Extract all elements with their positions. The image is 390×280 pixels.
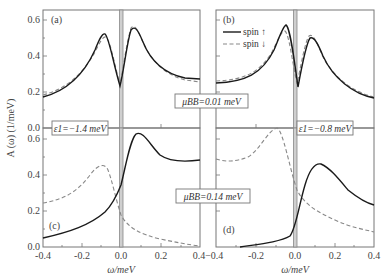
annotation-field-top: μBB=0.01 meV [175,94,248,108]
spectral-function-figure: 0.6 0.4 0.2 0.0 0.6 0.4 0.2 0.0 -0.4 -0.… [0,0,390,280]
x-tick-right-0.0: 0.0 [289,250,302,261]
y-tick-a-0.0: 0.0 [28,122,41,133]
y-tick-a-0.2: 0.2 [28,86,41,97]
svg-text:μBB=0.14 meV: μBB=0.14 meV [183,192,244,202]
panel-label-d: (d) [223,224,235,236]
svg-text:μBB=0.01 meV: μBB=0.01 meV [181,97,242,107]
x-tick-right-0.2: 0.2 [329,250,342,261]
y-axis-title: A (ω) (1/meV) [5,99,17,158]
x-tick-left-0.0: 0.0 [115,250,128,261]
x-tick-right-n0.2: -0.2 [248,250,264,261]
legend-spin-down-label: spin ↓ [243,39,266,49]
annotation-field-bottom: μBB=0.14 meV [176,189,250,203]
svg-text:ε1=−0.8 meV: ε1=−0.8 meV [299,124,353,134]
legend-spin-up-label: spin ↑ [243,27,266,37]
zero-band-a [120,10,124,128]
x-tick-left-0.2: 0.2 [155,250,168,261]
panel-label-b: (b) [223,14,235,26]
y-tick-a-0.4: 0.4 [28,50,41,61]
y-tick-c-0.2: 0.2 [28,205,41,216]
legend: spin ↑ spin ↓ [223,27,266,49]
x-axis-title-right: ω/meV [281,264,310,275]
panel-label-a: (a) [51,14,62,26]
y-tick-c-0.4: 0.4 [28,169,41,180]
y-tick-a-0.6: 0.6 [28,14,41,25]
x-tick-left-n0.4: -0.4 [35,250,51,261]
x-tick-joined: 0.4−0.4 [193,250,224,261]
panel-label-c: (c) [49,220,60,232]
curve-d-spin-up [240,164,374,247]
svg-text:ε1=−1.4 meV: ε1=−1.4 meV [54,124,108,134]
x-tick-left-n0.2: -0.2 [74,250,90,261]
x-tick-right-0.4: 0.4 [368,250,381,261]
annotation-eps-left: ε1=−1.4 meV [52,121,108,135]
annotation-eps-right: ε1=−0.8 meV [297,121,353,135]
y-tick-c-0.6: 0.6 [28,133,41,144]
x-axis-title-left: ω/meV [107,264,136,275]
